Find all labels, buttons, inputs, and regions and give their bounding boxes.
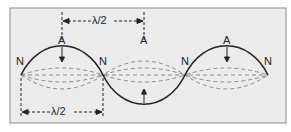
- antinode-label-1: A: [58, 35, 65, 46]
- antinode-label-3: A: [223, 35, 230, 46]
- bottom-half-wavelength-label: λ/2: [51, 106, 66, 117]
- node-label-1: N: [16, 56, 24, 67]
- top-half-wavelength-label: λ/2: [92, 15, 107, 26]
- node-label-4: N: [264, 56, 272, 67]
- antinode-label-2: A: [140, 35, 147, 46]
- standing-wave-diagram: λ/2 λ/2 N N N N A A A: [0, 0, 291, 132]
- node-label-3: N: [181, 56, 189, 67]
- node-label-2: N: [99, 56, 107, 67]
- wave-figure: [0, 0, 291, 132]
